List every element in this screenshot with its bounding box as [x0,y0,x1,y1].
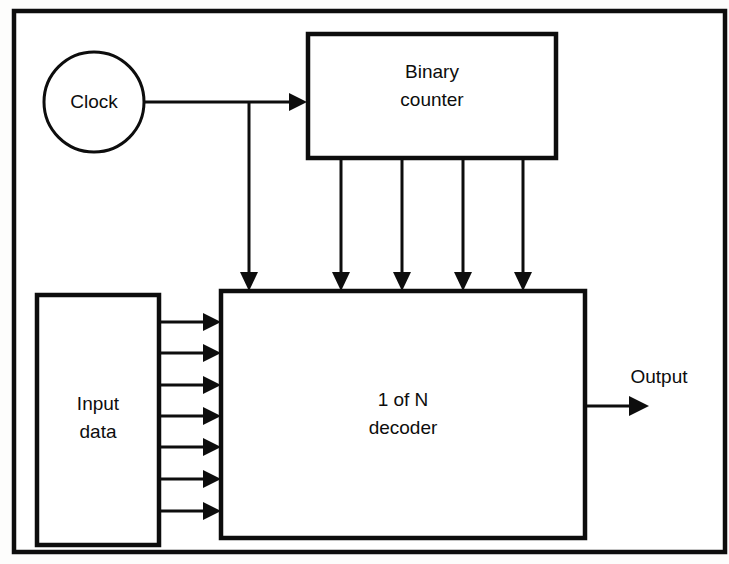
decoder-label-line2: decoder [369,417,438,438]
decoder-block [221,291,585,538]
input-data-block [37,295,159,545]
input-data-label-line2: data [80,421,117,442]
decoder-label-line1: 1 of N [378,389,429,410]
input-data-label-line1: Input [77,393,120,414]
binary-counter-label-line1: Binary [405,61,459,82]
diagram-svg: Clock Binary counter Input data [0,0,729,564]
binary-counter-label-line2: counter [400,89,464,110]
output-label: Output [630,366,688,387]
block-diagram-canvas: Clock Binary counter Input data [0,0,729,564]
clock-label: Clock [70,91,118,112]
